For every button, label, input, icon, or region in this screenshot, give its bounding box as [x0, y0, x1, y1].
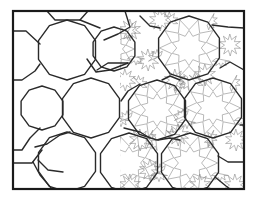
decagon-tile: [39, 132, 96, 192]
hexagon-edge: [13, 64, 40, 80]
bowtie-edge: [87, 59, 128, 72]
strapwork-inner-star: [141, 94, 172, 127]
decagon-tile: [129, 80, 186, 140]
bowtie-edge: [38, 160, 63, 172]
strapwork-inner-star: [174, 147, 205, 180]
decagon-tile: [159, 16, 220, 80]
strapwork-pentagon-star: [105, 65, 114, 81]
strapwork-inner-star: [197, 92, 228, 125]
bowtie-edge: [215, 177, 230, 189]
tiling-canvas: [0, 0, 257, 202]
decagon-tile: [21, 86, 63, 130]
strapwork-inner-star: [113, 147, 144, 180]
strapwork-small-star: [120, 174, 141, 196]
decagon-tile: [63, 78, 120, 138]
hexagon-edge: [80, 20, 100, 28]
hexagon-edge: [13, 150, 42, 163]
tile-outlines: [13, 11, 244, 193]
hexagon-edge: [13, 31, 40, 44]
girih-tiling-diagram: [0, 0, 257, 202]
strapwork-inner-star: [172, 30, 205, 65]
hexagon-edge: [220, 62, 244, 70]
strapwork-inner-star: [103, 37, 126, 61]
strapwork-star: [63, 82, 118, 134]
hexagon-edge: [47, 11, 88, 20]
strapwork-pattern: [53, 9, 252, 202]
decagon-tile: [93, 27, 135, 71]
strapwork-small-star: [220, 34, 241, 56]
strapwork-small-star: [138, 49, 159, 71]
strapwork-inner-star: [75, 92, 106, 125]
decagon-tile: [39, 20, 96, 80]
decagon-tile: [162, 133, 219, 193]
hexagon-edge: [218, 156, 244, 162]
hexagon-edge: [212, 25, 244, 28]
decagon-tile: [185, 78, 242, 138]
bowtie-edge: [35, 132, 70, 147]
strapwork-small-star: [225, 174, 246, 196]
